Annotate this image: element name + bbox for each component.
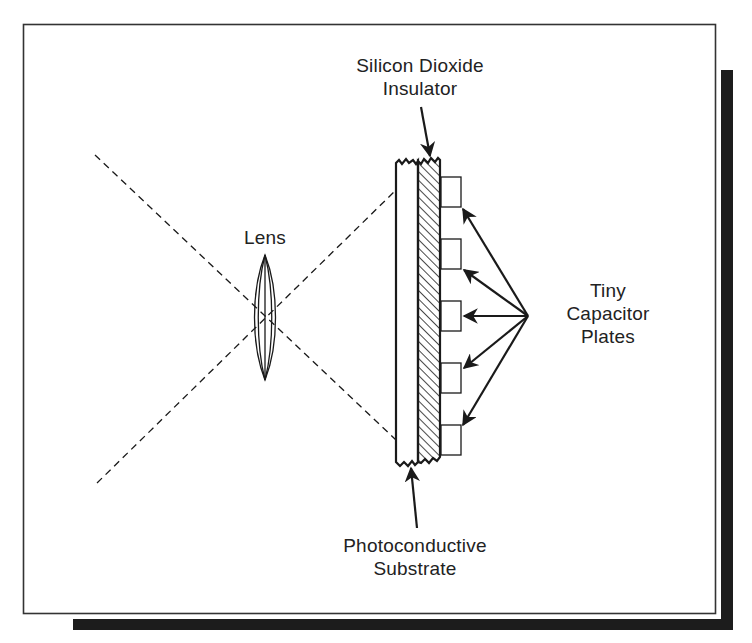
capacitor-label-line2: Capacitor: [548, 302, 668, 325]
substrate-label-line1: Photoconductive: [315, 534, 515, 557]
capacitor-plate-1: [441, 177, 461, 207]
capacitor-plates-label: Tiny Capacitor Plates: [548, 279, 668, 348]
capacitor-plate-3: [441, 301, 461, 331]
photoconductive-substrate: [396, 159, 418, 466]
substrate-label-line2: Substrate: [315, 557, 515, 580]
capacitor-plate-5: [441, 425, 461, 455]
lens-label: Lens: [225, 226, 305, 249]
lens-label-text: Lens: [225, 226, 305, 249]
silicon-dioxide-insulator: [418, 158, 440, 463]
insulator-label: Silicon Dioxide Insulator: [330, 54, 510, 100]
insulator-label-line1: Silicon Dioxide: [330, 54, 510, 77]
capacitor-plate-2: [441, 239, 461, 269]
capacitor-label-line3: Plates: [548, 325, 668, 348]
insulator-label-line2: Insulator: [330, 77, 510, 100]
capacitor-label-line1: Tiny: [548, 279, 668, 302]
substrate-label: Photoconductive Substrate: [315, 534, 515, 580]
capacitor-plate-4: [441, 363, 461, 393]
